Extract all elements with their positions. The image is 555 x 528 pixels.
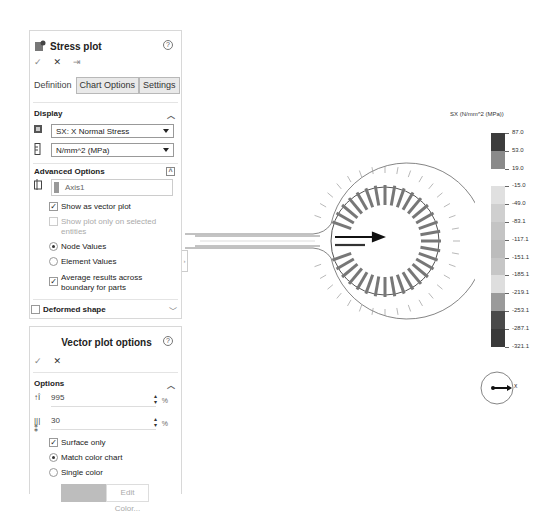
dropdown-arrow-icon	[163, 129, 169, 133]
legend-swatch	[491, 258, 505, 276]
advanced-options-heading: Advanced Options	[34, 167, 105, 176]
units-select[interactable]: N/mm^2 (MPa)	[51, 143, 174, 157]
legend-label: -321.1	[512, 343, 529, 349]
vector-plot-options-panel: Vector plot options ? ✓ ✕ Options ︿ ↑Î 9…	[29, 326, 182, 494]
options-section-header[interactable]: Options ︿	[34, 379, 175, 391]
legend-tick	[505, 311, 509, 312]
action-bar: ✓ ✕	[34, 356, 61, 366]
divider	[33, 372, 178, 373]
help-icon[interactable]: ?	[163, 336, 173, 346]
edit-color-button[interactable]: Edit Color...	[106, 484, 149, 502]
tab-chart-options[interactable]: Chart Options	[76, 77, 140, 94]
label: Single color	[61, 468, 103, 477]
legend-swatch	[491, 204, 505, 222]
label: Show plot only on selected entities	[61, 217, 174, 237]
vector-plot-header: Vector plot options ?	[34, 335, 175, 349]
label: Node Values	[61, 242, 106, 251]
ok-button[interactable]: ✓	[34, 356, 42, 366]
checkbox[interactable]	[31, 305, 40, 314]
vector-density-spinner[interactable]: 30 ▴▾ %	[51, 416, 156, 430]
radio-selected[interactable]	[49, 242, 58, 251]
units-value: N/mm^2 (MPa)	[56, 146, 110, 155]
checkbox[interactable]: ✓	[49, 438, 58, 447]
panel-title: Stress plot	[50, 41, 102, 52]
vector-plot-canvas[interactable]	[185, 140, 475, 370]
action-bar: ✓ ✕ ⇥	[34, 57, 81, 67]
divider	[33, 299, 178, 300]
stress-component-icon	[34, 124, 44, 136]
color-legend-bar	[491, 133, 505, 347]
spin-arrows-icon[interactable]: ▴▾	[154, 416, 157, 428]
unit-label: %	[162, 397, 168, 404]
stress-plot-header: Stress plot ?	[34, 39, 175, 53]
divider	[33, 102, 178, 103]
legend-title: SX (N/mm^2 (MPa))	[450, 111, 504, 117]
axis-value: Axis1	[65, 183, 85, 192]
checkbox[interactable]: ✓	[49, 202, 58, 211]
show-selected-only-checkbox[interactable]: Show plot only on selected entities	[49, 217, 174, 237]
legend-tick	[505, 169, 509, 170]
display-section-header[interactable]: Display ︿	[34, 109, 175, 121]
help-icon[interactable]: ?	[163, 40, 173, 50]
chevron-up-icon[interactable]: ︿	[167, 379, 175, 390]
legend-label: -287.1	[512, 325, 529, 331]
deformed-shape-checkbox[interactable]: Deformed shape ﹀	[31, 305, 177, 314]
cancel-button[interactable]: ✕	[54, 356, 62, 366]
match-color-chart-radio[interactable]: Match color chart	[49, 453, 122, 462]
legend-swatch	[491, 133, 505, 151]
vector-density-value: 30	[51, 416, 60, 425]
single-color-radio[interactable]: Single color	[49, 468, 103, 477]
stress-plot-icon	[34, 40, 46, 52]
panel-title: Vector plot options	[61, 337, 152, 348]
chevron-down-icon[interactable]: ﹀	[169, 305, 177, 316]
legend-swatch	[491, 186, 505, 204]
checkbox[interactable]	[49, 217, 58, 226]
component-select[interactable]: SX: X Normal Stress	[51, 124, 174, 138]
spin-arrows-icon[interactable]: ▴▾	[154, 393, 157, 405]
axis-reference-field[interactable]: Axis1	[51, 179, 173, 196]
legend-label: -185.1	[512, 271, 529, 277]
legend-swatch	[491, 293, 505, 311]
radio[interactable]	[49, 468, 58, 477]
options-heading: Options	[34, 379, 64, 388]
display-heading: Display	[34, 109, 62, 118]
collapse-button[interactable]: ^	[166, 167, 175, 176]
tab-settings[interactable]: Settings	[139, 77, 180, 94]
legend-tick	[505, 293, 509, 294]
legend-swatch	[491, 222, 505, 240]
legend-swatch	[491, 240, 505, 258]
chevron-up-icon[interactable]: ︿	[167, 109, 175, 120]
checkbox[interactable]: ✓	[49, 277, 58, 286]
label: Average results across boundary for part…	[61, 273, 174, 293]
legend-swatch	[491, 275, 505, 293]
show-vector-plot-checkbox[interactable]: ✓ Show as vector plot	[49, 202, 131, 211]
legend-tick	[505, 347, 509, 348]
legend-label: -83.1	[512, 218, 526, 224]
reference-triad: X	[478, 368, 518, 408]
legend-label: -219.1	[512, 289, 529, 295]
cancel-button[interactable]: ✕	[54, 57, 62, 67]
advanced-options-header[interactable]: Advanced Options ^	[34, 167, 175, 179]
radio-selected[interactable]	[49, 453, 58, 462]
element-values-radio[interactable]: Element Values	[49, 257, 116, 266]
label: Element Values	[61, 257, 116, 266]
tab-definition[interactable]: Definition	[30, 77, 76, 94]
tab-bar: Definition Chart Options Settings	[30, 77, 180, 94]
vector-density-icon: |||⁑	[34, 416, 44, 428]
legend-label: -151.1	[512, 254, 529, 260]
legend-swatch	[491, 169, 505, 187]
legend-label: -15.0	[512, 182, 526, 188]
triad-axis-label: X	[514, 383, 518, 389]
legend-label: -49.0	[512, 200, 526, 206]
radio[interactable]	[49, 257, 58, 266]
surface-only-checkbox[interactable]: ✓ Surface only	[49, 438, 105, 447]
legend-tick	[505, 151, 509, 152]
ok-button[interactable]: ✓	[34, 57, 42, 67]
average-results-checkbox[interactable]: ✓ Average results across boundary for pa…	[49, 273, 174, 293]
pin-button[interactable]: ⇥	[73, 57, 81, 67]
units-icon	[34, 143, 44, 155]
vector-size-spinner[interactable]: 995 ▴▾ %	[51, 393, 156, 407]
node-values-radio[interactable]: Node Values	[49, 242, 106, 251]
legend-swatch	[491, 311, 505, 329]
legend-tick	[505, 258, 509, 259]
